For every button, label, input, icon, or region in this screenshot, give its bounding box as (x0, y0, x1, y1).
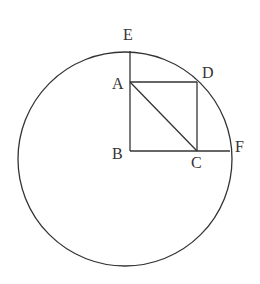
label-E: E (123, 26, 133, 43)
label-F: F (235, 138, 244, 155)
geometry-diagram: E A D B C F (0, 0, 260, 284)
label-D: D (202, 64, 214, 81)
label-A: A (112, 75, 124, 92)
diagonal-AC (130, 82, 197, 151)
label-B: B (112, 145, 123, 162)
label-C: C (191, 154, 202, 171)
